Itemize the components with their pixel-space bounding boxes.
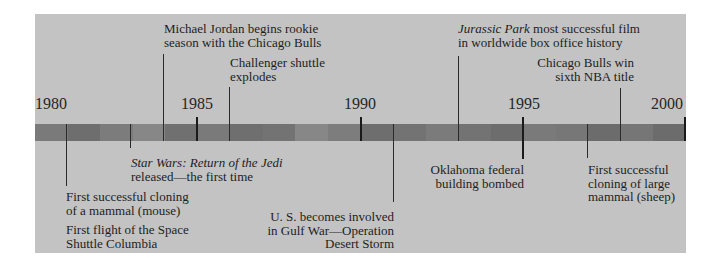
- year-label-1985: 1985: [181, 96, 213, 112]
- event-1983-star-wars: Star Wars: Return of the Jedi released—t…: [131, 156, 283, 183]
- event-1991-gulf-war: U. S. becomes involved in Gulf War—Opera…: [267, 210, 394, 251]
- leader-1983: [130, 124, 131, 148]
- event-1998-bulls: Chicago Bulls win sixth NBA title: [537, 56, 634, 83]
- event-1986-challenger: Challenger shuttle explodes: [230, 56, 325, 83]
- event-1984-jordan: Michael Jordan begins rookie season with…: [164, 22, 321, 49]
- year-label-1980: 1980: [35, 96, 67, 112]
- year-label-1995: 1995: [508, 96, 540, 112]
- leader-1997: [587, 124, 588, 158]
- event-1993-jurassic-park: Jurassic Park most successful film in wo…: [458, 22, 640, 49]
- tick-1985: [196, 117, 198, 141]
- leader-1998: [620, 88, 621, 141]
- event-1981-columbia: First flight of the Space Shuttle Columb…: [66, 223, 189, 250]
- tick-1990: [360, 117, 362, 141]
- event-1997-cloning-sheep: First successful cloning of large mammal…: [588, 163, 675, 204]
- tick-1995: [522, 117, 524, 159]
- year-label-1990: 1990: [344, 96, 376, 112]
- leader-1991: [393, 124, 394, 202]
- leader-1986: [229, 87, 230, 141]
- leader-1981: [66, 124, 67, 186]
- year-label-2000: 2000: [651, 96, 683, 112]
- tick-2000: [684, 117, 686, 141]
- event-1995-oklahoma: Oklahoma federal building bombed: [431, 163, 524, 190]
- leader-1984: [163, 54, 164, 141]
- leader-1993: [458, 56, 459, 141]
- event-1981-cloning-mouse: First successful cloning of a mammal (mo…: [66, 190, 189, 217]
